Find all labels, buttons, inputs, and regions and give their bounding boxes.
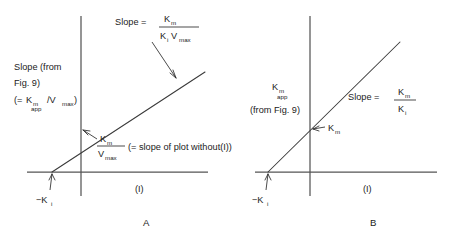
panel-a-x-intercept-label: −K [36,195,48,205]
panel-a-x-intercept-annotation: −K i [36,174,55,207]
panel-a-slope-numerator-sub: m [171,19,176,26]
panel-a-x-axis-label: (I) [135,184,144,194]
panel-b-y-axis-km-sub-app: app [277,93,288,100]
panel-b-x-intercept-annotation: −K i [252,174,271,207]
panel-a-y-axis-expression: (= K m app /V max ) [14,95,77,112]
panel-b-y-axis-km: K [272,82,279,92]
panel-b-slope-prefix: Slope = [348,92,379,102]
panel-a-slope-numerator-km: K [164,14,171,24]
panel-a-expr-paren-open: (= [14,95,22,105]
panel-a-expr-vmax-sub: max [62,100,75,107]
panel-b-x-intercept-label: −K [252,195,264,205]
panel-a-intercept-note: (= slope of plot without(I)) [128,142,232,152]
panel-a-intercept-vmax-sub: max [105,154,118,161]
panel-a-x-intercept-label-sub: i [51,200,52,207]
panel-a-expr-paren-close: ) [74,95,77,105]
panel-b-y-axis-source: (from Fig. 9) [250,105,300,115]
panel-b-x-intercept-label-sub: i [267,200,268,207]
panel-b-slope-denominator-ki: K [398,104,405,114]
panel-a-data-line [52,72,205,172]
panel-b-y-axis-label: K m app (from Fig. 9) [250,82,300,115]
panel-a-caption: A [143,217,150,228]
panel-a-intercept-vmax: V [98,149,105,159]
panel-b-intercept-label-sub: m [335,128,340,135]
panel-a-slope-annotation: Slope = K m K i V max [115,14,199,78]
figure-svg: Slope (from Fig. 9) (= K m app /V max ) … [0,0,455,242]
panel-b-slope-denominator-sub: i [405,109,406,116]
panel-a-intercept-km-sub: m [107,139,112,146]
panel-b-slope-annotation: Slope = K m K i [348,87,416,116]
panel-b-intercept-label: K [328,123,335,133]
panel-a-slope-leader-line [152,42,176,78]
panel-b-slope-numerator-km: K [398,87,405,97]
panel-a-intercept-annotation: K m V max (= slope of plot without(I)) [83,130,232,161]
panel-b: K m app (from Fig. 9) Slope = K m K i K … [250,16,437,228]
panel-a-expr-km: K [26,95,33,105]
panel-a-y-axis-label-line2: Fig. 9) [14,78,40,88]
panel-a: Slope (from Fig. 9) (= K m app /V max ) … [14,14,232,228]
panel-a-slope-prefix: Slope = [115,17,146,27]
panel-a-slope-denominator-sub: i [167,36,168,43]
panel-a-expr-km-sub-app: app [31,105,42,112]
panel-b-intercept-annotation: K m [313,123,340,135]
panel-a-slope-denominator-ki: K [160,31,167,41]
panel-a-y-axis-label-line1: Slope (from [14,62,62,72]
panel-b-caption: B [370,217,377,228]
panel-b-x-axis-label: (I) [363,184,372,194]
panel-a-intercept-km: K [100,134,107,144]
panel-b-slope-numerator-sub: m [405,92,410,99]
figure-container: Slope (from Fig. 9) (= K m app /V max ) … [0,0,455,242]
panel-a-slope-denominator-vmax: V [171,31,178,41]
panel-a-expr-divider-vmax: /V [47,95,57,105]
panel-a-slope-denominator-vmax-sub: max [179,36,192,43]
